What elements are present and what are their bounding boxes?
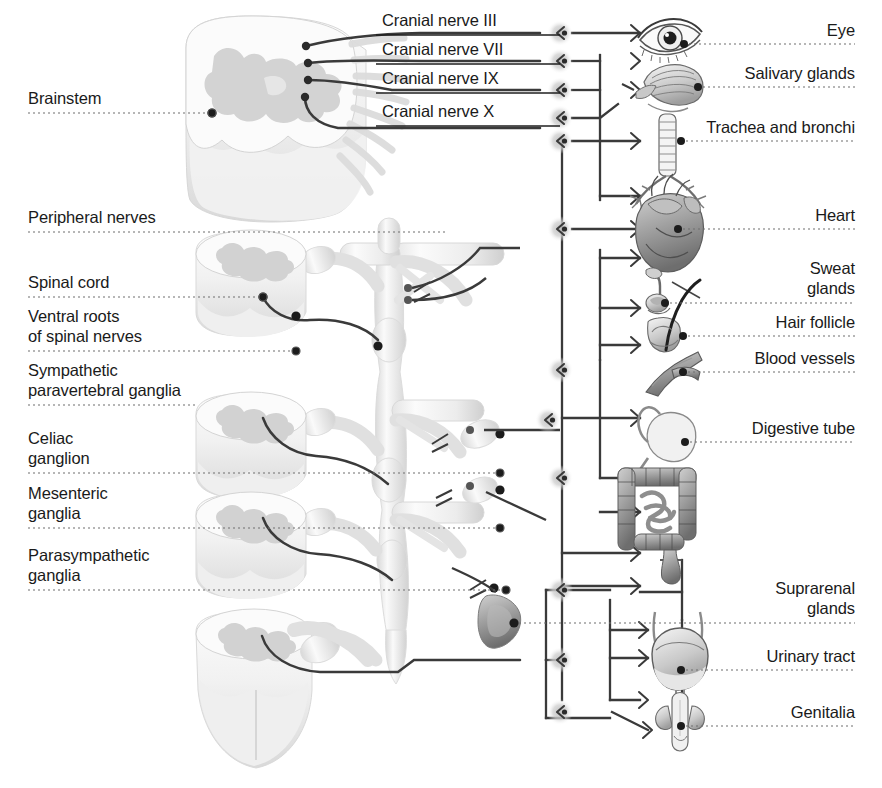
hair-follicle-illustration	[648, 280, 700, 352]
label-mesenteric-ganglia: Mesenteric ganglia	[28, 483, 108, 523]
label-sympathetic-ganglia: Sympathetic paravertebral ganglia	[28, 360, 181, 400]
label-cranial-nerve-10: Cranial nerve X	[382, 101, 494, 121]
label-ventral-roots: Ventral roots of spinal nerves	[28, 306, 142, 346]
label-blood-vessels: Blood vessels	[754, 348, 855, 368]
label-digestive-tube: Digestive tube	[752, 418, 855, 438]
label-cranial-nerve-9: Cranial nerve IX	[382, 68, 499, 88]
ventral-root-callout-dot	[291, 311, 300, 320]
eye-illustration	[638, 19, 702, 63]
salivary-gland-illustration	[622, 65, 703, 112]
label-brainstem: Brainstem	[28, 88, 101, 108]
label-genitalia: Genitalia	[791, 702, 855, 722]
digestive-tube-illustration	[618, 407, 696, 584]
label-cranial-nerve-3: Cranial nerve III	[382, 10, 497, 30]
sweat-gland-callout-dot	[661, 299, 669, 307]
urinary-callout-dot	[677, 666, 685, 674]
label-suprarenal-glands: Suprarenal glands	[775, 578, 855, 618]
label-celiac-ganglion: Celiac ganglion	[28, 428, 90, 468]
trachea-callout-dot	[677, 137, 685, 145]
label-hair-follicle: Hair follicle	[776, 312, 855, 332]
suprarenal-gland-illustration	[478, 595, 521, 648]
sweat-gland-illustration	[646, 268, 700, 314]
diagram-canvas: BrainstemPeripheral nervesSpinal cordVen…	[0, 0, 882, 788]
label-sweat-glands: Sweat glands	[807, 258, 855, 298]
label-cranial-nerve-7: Cranial nerve VII	[382, 39, 503, 59]
heart-callout-dot	[674, 225, 682, 233]
genitalia-callout-dot	[677, 722, 685, 730]
label-eye: Eye	[827, 20, 855, 40]
label-heart: Heart	[815, 205, 855, 225]
label-trachea-bronchi: Trachea and bronchi	[706, 117, 855, 137]
salivary-callout-dot	[694, 83, 702, 91]
genitalia-illustration	[656, 693, 705, 752]
heart-illustration	[636, 174, 704, 272]
label-urinary-tract: Urinary tract	[766, 646, 855, 666]
blood-vessel-illustration	[646, 352, 702, 396]
eye-callout-dot	[680, 40, 688, 48]
label-peripheral-nerves: Peripheral nerves	[28, 207, 156, 227]
label-salivary-glands: Salivary glands	[745, 63, 855, 83]
suprarenal-callout-dot	[509, 618, 518, 627]
sympathetic-chain-callout-dot	[373, 341, 382, 350]
digestive-callout-dot	[681, 438, 689, 446]
hair-follicle-callout-dot	[679, 332, 687, 340]
spinal-cord-sections	[196, 230, 368, 768]
label-parasympathetic-ganglia: Parasympathetic ganglia	[28, 545, 149, 585]
mesenteric-callout-dot	[495, 485, 504, 494]
blood-vessel-callout-dot	[679, 368, 687, 376]
label-spinal-cord: Spinal cord	[28, 272, 109, 292]
